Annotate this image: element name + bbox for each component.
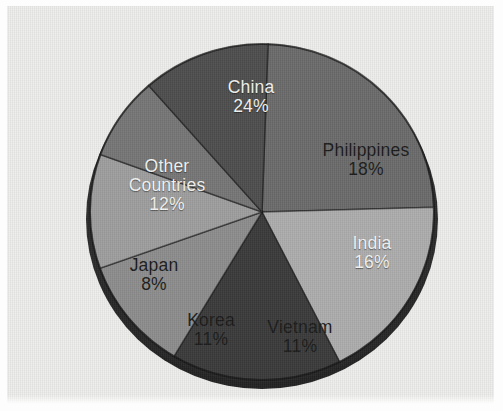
pie-slice-china[interactable] — [262, 44, 434, 212]
pie-chart-svg — [0, 0, 503, 411]
pie-wedges-group — [90, 44, 434, 380]
pie-chart-figure: China 24% Philippines 18% India 16% Viet… — [0, 0, 503, 411]
